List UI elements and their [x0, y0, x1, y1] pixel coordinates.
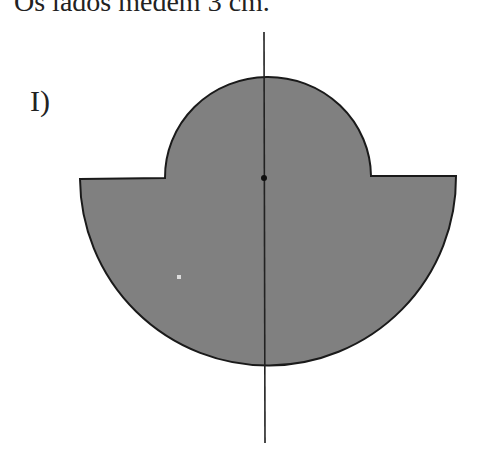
composite-shape-figure — [0, 0, 483, 465]
center-point — [261, 175, 267, 181]
speck — [177, 275, 181, 279]
composite-shape — [80, 77, 456, 366]
symmetry-axis — [264, 32, 265, 443]
